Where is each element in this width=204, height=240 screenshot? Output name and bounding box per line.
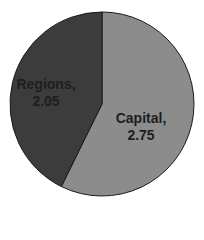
label-capital-name: Capital,: [106, 110, 176, 127]
label-regions-value: 2.05: [16, 93, 76, 110]
label-regions: Regions, 2.05: [16, 76, 76, 110]
label-capital: Capital, 2.75: [106, 110, 176, 144]
label-capital-value: 2.75: [106, 127, 176, 144]
label-regions-name: Regions,: [16, 76, 76, 93]
